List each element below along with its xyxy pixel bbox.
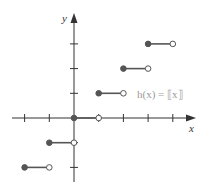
x-axis-label: x [188,122,194,134]
x-axis-arrow-icon [186,115,196,122]
function-label: h(x) = ⟦x⟧ [137,88,183,101]
open-endpoint [145,66,151,72]
closed-endpoint [145,41,151,47]
open-endpoint [47,165,53,171]
y-axis-label: y [61,12,67,24]
open-endpoint [71,140,77,146]
step-function-chart: y x h(x) = ⟦x⟧ [0,0,209,192]
closed-endpoint [96,91,102,97]
axis-ticks [25,44,173,167]
open-endpoint [96,115,102,121]
step-segments [22,41,176,170]
closed-endpoint [121,66,127,72]
closed-endpoint [47,140,53,146]
open-endpoint [170,41,176,47]
closed-endpoint [22,165,28,171]
open-endpoint [121,91,127,97]
y-axis-arrow-icon [71,13,78,23]
closed-endpoint [71,115,77,121]
